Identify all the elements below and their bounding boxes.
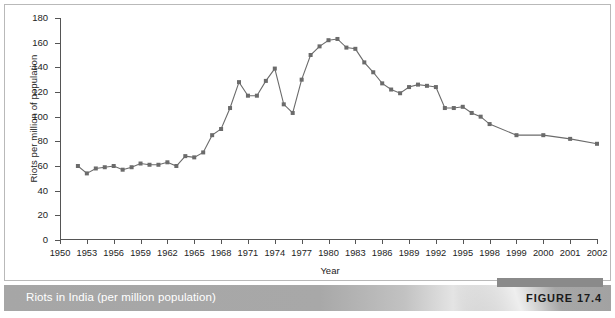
y-axis-tick-label: 100 — [32, 111, 48, 122]
series-marker — [183, 154, 187, 158]
x-axis-tick-label: 1959 — [130, 248, 151, 258]
x-axis-tick-label: 1953 — [77, 248, 98, 258]
series-marker — [103, 165, 107, 169]
x-axis-tick-label: 1998 — [479, 248, 500, 258]
series-marker — [398, 91, 402, 95]
x-axis-tick-label: 1971 — [238, 248, 259, 258]
series-marker — [371, 70, 375, 74]
series-marker — [541, 133, 545, 137]
plot-area: 020406080100120140160180 195019531956195… — [60, 15, 600, 240]
series-marker — [282, 102, 286, 106]
series-marker — [362, 60, 366, 64]
series-marker — [255, 94, 259, 98]
series-marker — [380, 81, 384, 85]
series-marker — [139, 162, 143, 166]
series-marker — [425, 84, 429, 88]
series-marker — [300, 78, 304, 82]
series-marker — [210, 133, 214, 137]
series-marker — [237, 80, 241, 84]
series-marker — [344, 46, 348, 50]
series-marker — [595, 142, 599, 146]
x-axis-tick-label: 1995 — [452, 248, 473, 258]
series-marker — [219, 127, 223, 131]
series-marker — [85, 171, 89, 175]
y-axis-tick-label: 120 — [32, 86, 48, 97]
y-axis-tick-label: 0 — [43, 234, 48, 245]
chart-panel: Riots per million of population 02040608… — [4, 4, 611, 281]
x-axis-tick-label: 1986 — [372, 248, 393, 258]
y-axis-tick-label: 80 — [37, 135, 48, 146]
series-marker — [156, 163, 160, 167]
x-axis-title: Year — [60, 265, 600, 276]
series-marker — [112, 164, 116, 168]
series-marker — [318, 44, 322, 48]
series-marker — [121, 168, 125, 172]
series-marker — [514, 133, 518, 137]
series-marker — [174, 164, 178, 168]
figure-container: Riots per million of population 02040608… — [0, 0, 615, 318]
series-marker — [470, 111, 474, 115]
series-marker — [264, 79, 268, 83]
x-axis-tick-label: 1992 — [426, 248, 447, 258]
series-marker — [327, 38, 331, 42]
x-axis-tick-label: 1968 — [211, 248, 232, 258]
series-marker — [291, 111, 295, 115]
series-marker — [443, 106, 447, 110]
y-axis-tick-label: 20 — [37, 209, 48, 220]
series-marker — [76, 164, 80, 168]
series-marker — [130, 165, 134, 169]
riots-line-series — [60, 15, 600, 240]
x-axis-tick-label: 1974 — [264, 248, 285, 258]
series-marker — [228, 106, 232, 110]
series-marker — [353, 47, 357, 51]
x-axis-tick-label: 1956 — [103, 248, 124, 258]
series-marker — [165, 160, 169, 164]
series-marker — [201, 150, 205, 154]
x-axis-tick-label: 1977 — [291, 248, 312, 258]
figure-tag-label: FIGURE 17.4 — [526, 292, 602, 304]
y-axis-tick-label: 40 — [37, 185, 48, 196]
x-axis-tick-label: 2001 — [560, 248, 581, 258]
figure-caption-text: Riots in India (per million population) — [26, 291, 216, 303]
series-marker — [461, 105, 465, 109]
y-axis-tick-label: 160 — [32, 37, 48, 48]
series-marker — [94, 166, 98, 170]
series-marker — [335, 37, 339, 41]
series-marker — [488, 122, 492, 126]
x-axis-tick-label: 1989 — [399, 248, 420, 258]
series-marker — [309, 53, 313, 57]
series-marker — [273, 67, 277, 71]
x-axis-tick-label: 1962 — [157, 248, 178, 258]
y-axis-tick-label: 60 — [37, 160, 48, 171]
series-marker — [246, 94, 250, 98]
x-axis-tick-label: 1980 — [318, 248, 339, 258]
y-axis-tick-label: 180 — [32, 12, 48, 23]
series-marker — [389, 88, 393, 92]
x-axis-tick-label: 1950 — [50, 248, 71, 258]
x-axis-tick-label: 1965 — [184, 248, 205, 258]
series-line — [78, 39, 597, 173]
x-axis-tick-label: 2002 — [587, 248, 608, 258]
x-axis-tick-label: 1999 — [506, 248, 527, 258]
x-axis-tick-label: 1983 — [345, 248, 366, 258]
series-marker — [434, 85, 438, 89]
figure-caption-bar: Riots in India (per million population) … — [4, 285, 611, 311]
y-axis-tick-label: 140 — [32, 61, 48, 72]
series-marker — [407, 85, 411, 89]
series-marker — [416, 83, 420, 87]
x-axis-tick-label: 2000 — [533, 248, 554, 258]
series-marker — [192, 155, 196, 159]
series-marker — [479, 115, 483, 119]
series-marker — [148, 163, 152, 167]
series-marker — [568, 137, 572, 141]
figure-tag-block — [497, 278, 603, 287]
series-marker — [452, 106, 456, 110]
